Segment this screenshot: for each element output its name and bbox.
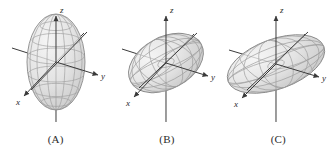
axis-label-y: y [210,72,215,82]
axis-label-y: y [321,73,326,83]
panel-caption-c: (C) [223,133,334,145]
axis-label-x: x [125,98,130,108]
panel-caption-a: (A) [0,133,111,145]
axis-label-x: x [233,99,238,109]
axis-label-z: z [169,5,174,15]
panel-c-diagram: z y x [223,0,334,148]
ellipsoid-figure: z y x (A) [0,0,334,148]
panel-a: z y x (A) [0,0,111,148]
panel-b-diagram: z y x [111,0,222,148]
axis-label-y: y [100,71,105,81]
axis-label-x: x [15,97,20,107]
axis-label-z: z [59,5,64,15]
panel-caption-b: (B) [111,133,222,145]
panel-c: z y x (C) [223,0,334,148]
axis-label-z: z [279,5,284,15]
panel-a-diagram: z y x [0,0,111,148]
panel-b: z y x (B) [111,0,222,148]
ellipsoid-c [223,23,332,105]
